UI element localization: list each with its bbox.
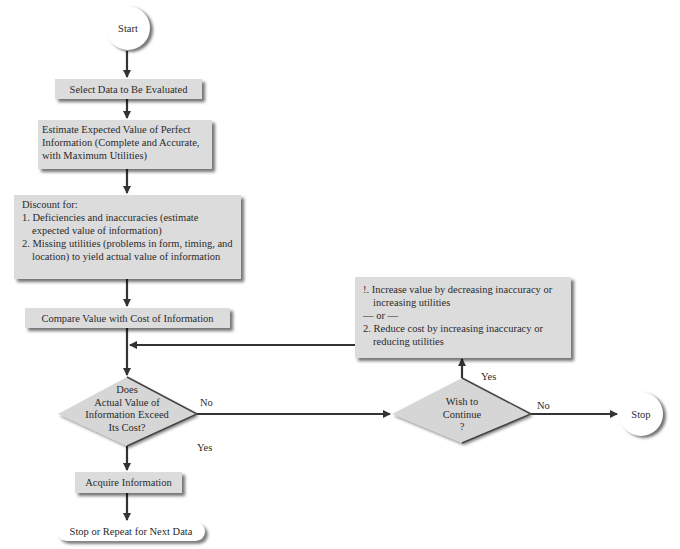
edge-label-yes-1: Yes [197,442,212,453]
edge-label-no-1: No [200,397,213,408]
discount-item-2: 2. Missing utilities (problems in form, … [22,237,233,263]
option-item-1: !. Increase value by decreasing inaccura… [363,283,563,309]
decision-1-line: Information Exceed [70,409,184,422]
decision-1-text: Does Actual Value of Information Exceed … [70,384,184,434]
acquire-label: Acquire Information [85,476,172,489]
select-data-box: Select Data to Be Evaluated [55,79,202,99]
decision-1-line: Does [70,384,184,397]
stop-node: Stop [619,392,663,436]
compare-box: Compare Value with Cost of Information [25,308,230,328]
estimate-value-label: Estimate Expected Value of Perfect Infor… [42,124,199,161]
decision-1-line: Actual Value of [70,397,184,410]
acquire-box: Acquire Information [75,472,182,493]
decision-2-line: Wish to [417,396,507,409]
discount-heading: Discount for: [22,198,233,211]
options-box: !. Increase value by decreasing inaccura… [355,277,571,358]
discount-box: Discount for: 1. Deficiencies and inaccu… [14,195,241,279]
estimate-value-box: Estimate Expected Value of Perfect Infor… [38,120,212,169]
select-data-label: Select Data to Be Evaluated [70,83,188,96]
stop-or-repeat-label: Stop or Repeat for Next Data [70,526,193,537]
compare-label: Compare Value with Cost of Information [41,312,213,325]
decision-2-line: Continue [417,409,507,422]
edge-label-yes-2: Yes [481,371,496,382]
option-separator: — or — [363,309,563,322]
stop-or-repeat-node: Stop or Repeat for Next Data [57,522,205,541]
decision-2-line: ? [417,421,507,434]
decision-1-line: Its Cost? [70,422,184,435]
decision-2-text: Wish to Continue ? [417,396,507,434]
stop-label: Stop [631,409,650,420]
option-item-2: 2. Reduce cost by increasing inaccuracy … [363,322,563,348]
edge-label-no-2: No [537,400,550,411]
start-node: Start [106,6,150,50]
discount-item-1: 1. Deficiencies and inaccuracies (estima… [22,211,233,237]
start-label: Start [118,23,138,34]
